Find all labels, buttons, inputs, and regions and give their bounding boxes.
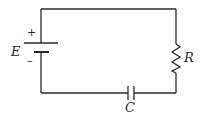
battery-label: E	[10, 44, 21, 59]
resistor-label: R	[183, 50, 194, 65]
battery-positive-sign: +	[27, 26, 36, 39]
circuit-diagram: + E – R C	[0, 0, 201, 116]
resistor-zigzag	[172, 44, 180, 73]
battery-negative-sign: –	[27, 54, 33, 67]
capacitor-label: C	[125, 100, 135, 115]
